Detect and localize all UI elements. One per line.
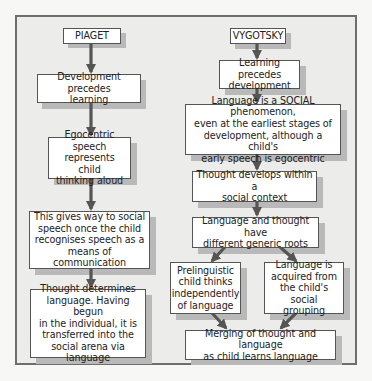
vygotsky-branch-right: Language is acquired from the child's so… bbox=[264, 262, 344, 314]
vygotsky-merge: Merging of thought and language as child… bbox=[185, 330, 336, 360]
arrow-merge-left bbox=[212, 313, 226, 328]
vygotsky-merge-label: Merging of thought and language as child… bbox=[189, 328, 332, 363]
piaget-step-2-label: Egocentric speech represents child think… bbox=[52, 129, 127, 187]
vygotsky-heading-label: VYGOTSKY bbox=[233, 30, 283, 42]
vygotsky-step-4: Language and thought have different gene… bbox=[192, 217, 319, 248]
vygotsky-step-2-label: Language is a SOCIAL phenomenon, even at… bbox=[189, 95, 337, 165]
vygotsky-step-1: Learning precedes development bbox=[219, 60, 300, 89]
piaget-step-4: Thought determines language. Having begu… bbox=[30, 289, 146, 358]
piaget-step-3: This gives way to social speech once the… bbox=[29, 211, 150, 269]
piaget-step-1: Development precedes learning bbox=[37, 74, 141, 103]
vygotsky-branch-right-label: Language is acquired from the child's so… bbox=[268, 259, 340, 317]
vygotsky-step-3: Thought develops within a social context bbox=[192, 171, 317, 202]
piaget-step-4-label: Thought determines language. Having begu… bbox=[34, 283, 142, 364]
vygotsky-branch-left: Prelinguistic child thinks independently… bbox=[170, 262, 241, 314]
piaget-step-1-label: Development precedes learning bbox=[41, 71, 137, 106]
piaget-step-2: Egocentric speech represents child think… bbox=[48, 137, 131, 179]
piaget-heading: PIAGET bbox=[63, 28, 121, 44]
piaget-heading-label: PIAGET bbox=[75, 30, 109, 42]
piaget-step-3-label: This gives way to social speech once the… bbox=[33, 211, 146, 269]
vygotsky-step-2: Language is a SOCIAL phenomenon, even at… bbox=[185, 104, 341, 155]
vygotsky-heading: VYGOTSKY bbox=[230, 28, 286, 44]
vygotsky-step-1-label: Learning precedes development bbox=[223, 57, 296, 92]
vygotsky-branch-left-label: Prelinguistic child thinks independently… bbox=[172, 265, 240, 311]
vygotsky-step-3-label: Thought develops within a social context bbox=[196, 169, 313, 204]
vygotsky-step-4-label: Language and thought have different gene… bbox=[196, 215, 315, 250]
